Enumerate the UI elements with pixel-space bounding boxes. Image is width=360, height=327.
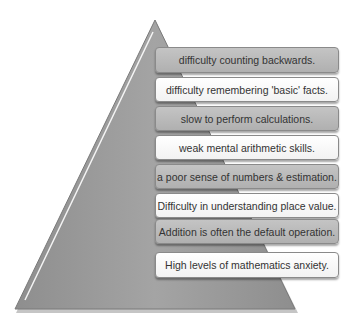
level-label: weak mental arithmetic skills. xyxy=(179,142,315,154)
pyramid-level-4: weak mental arithmetic skills. xyxy=(155,135,339,160)
level-label: slow to perform calculations. xyxy=(181,113,313,125)
pyramid-level-8: High levels of mathematics anxiety. xyxy=(155,252,339,278)
level-label: a poor sense of numbers & estimation. xyxy=(157,171,337,183)
level-label: difficulty counting backwards. xyxy=(179,54,315,66)
pyramid-level-6: Difficulty in understanding place value. xyxy=(155,193,339,218)
level-label: Difficulty in understanding place value. xyxy=(158,200,337,212)
pyramid-level-3: slow to perform calculations. xyxy=(155,106,339,131)
pyramid-level-1: difficulty counting backwards. xyxy=(155,47,339,73)
pyramid-level-5: a poor sense of numbers & estimation. xyxy=(155,164,339,189)
pyramid-level-2: difficulty remembering 'basic' facts. xyxy=(155,77,339,102)
level-label: difficulty remembering 'basic' facts. xyxy=(166,84,328,96)
pyramid-level-7: Addition is often the default operation. xyxy=(155,219,339,244)
level-label: Addition is often the default operation. xyxy=(159,226,335,238)
level-label: High levels of mathematics anxiety. xyxy=(165,259,329,271)
